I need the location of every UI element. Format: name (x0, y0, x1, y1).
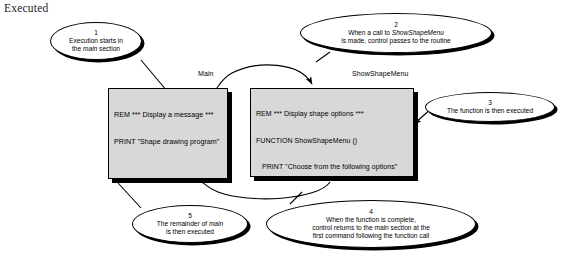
callout-4-line3: first command following the function cal… (306, 232, 437, 240)
callout-5-line2: is then executed (159, 228, 221, 236)
callout-5-line1: The remainder of main (150, 220, 230, 228)
leader-callout2-to-call-arrow (316, 52, 330, 62)
callout-2-line1-pre: When a call to (348, 29, 392, 36)
callout-1-line2-post: section (97, 45, 120, 52)
callout-1-line2: the main section (65, 45, 127, 53)
callout-1: 1 Execution starts in the main section (50, 22, 142, 60)
callout-2-line1-italic: ShowShapeMenu (392, 29, 444, 36)
callout-4-number: 4 (369, 208, 373, 216)
callout-5-line1-pre: The remainder of (157, 220, 209, 227)
code-line: FUNCTION ShowShapeMenu () (256, 137, 408, 146)
callout-1-line2-italic: main (83, 45, 97, 52)
callout-4: 4 When the function is complete, control… (266, 200, 476, 248)
leader-callout5-to-main-end (118, 183, 141, 208)
code-line: PRINT "Choose from the following options… (256, 163, 408, 172)
callout-4-line2: control returns to the main section at t… (305, 224, 437, 232)
callout-5-number: 5 (188, 212, 192, 220)
diagram-canvas: Executed Main REM *** Display a message … (0, 0, 564, 261)
callout-5: 5 The remainder of main is then executed (132, 205, 248, 243)
code-line-blank (114, 165, 222, 174)
callout-3-number: 3 (488, 99, 492, 107)
callout-3-line1: The function is then executed (440, 107, 540, 115)
callout-4-line1: When the function is complete, (319, 216, 423, 224)
code-line: REM *** Display shape options *** (256, 110, 408, 119)
code-box-main: REM *** Display a message *** PRINT "Sha… (108, 88, 228, 179)
code-box-showshapemenu: REM *** Display shape options *** FUNCTI… (250, 88, 414, 177)
code-line: REM *** Display a message *** (114, 111, 222, 120)
callout-1-line1: Execution starts in (62, 37, 130, 45)
callout-1-number: 1 (94, 29, 98, 37)
box-label-main: Main (198, 70, 214, 77)
leader-callout4-to-return-arrow (290, 192, 302, 204)
callout-2-line1: When a call to ShowShapeMenu (341, 29, 451, 37)
callout-5-line1-italic: main (209, 220, 223, 227)
callout-2-number: 2 (394, 21, 398, 29)
callout-2: 2 When a call to ShowShapeMenu is made, … (300, 13, 492, 53)
callout-1-line2-pre: the (72, 45, 83, 52)
box-label-showshapemenu: ShowShapeMenu (352, 70, 409, 77)
code-lines-showshapemenu: REM *** Display shape options *** FUNCTI… (251, 89, 413, 177)
callout-2-line2: is made, control passes to the routine (334, 37, 458, 45)
code-line: PRINT "Shape drawing program" (114, 138, 222, 147)
callout-3: 3 The function is then executed (425, 92, 555, 122)
code-lines-main: REM *** Display a message *** PRINT "Sha… (109, 89, 227, 179)
